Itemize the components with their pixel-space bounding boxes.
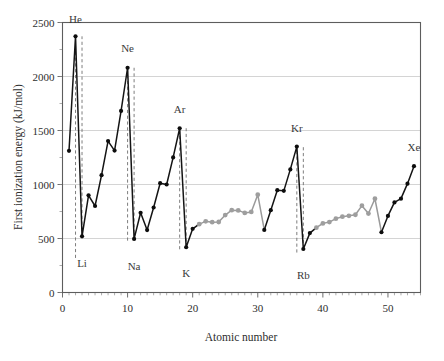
data-point-He — [73, 34, 77, 38]
x-tick-label: 50 — [382, 302, 394, 314]
axis-ticks — [58, 23, 421, 298]
data-point-Ni — [242, 211, 247, 216]
point-label-Xe: Xe — [408, 141, 421, 153]
data-point-Zn — [255, 192, 260, 197]
data-point-Ne — [125, 66, 129, 70]
data-point-S — [165, 182, 169, 186]
y-tick-label: 2000 — [33, 71, 56, 83]
data-point-Na — [132, 237, 136, 241]
x-tick-labels: 01020304050 — [60, 302, 394, 314]
data-point-Cr — [216, 220, 221, 225]
data-point-Li — [80, 234, 84, 238]
data-point-Cu — [249, 210, 254, 215]
plot-frame — [63, 23, 421, 293]
data-point-Fe — [229, 208, 234, 213]
y-tick-label: 500 — [38, 233, 55, 245]
data-point-Pd — [360, 203, 365, 208]
data-point-Mg — [139, 211, 143, 215]
x-tick-label: 0 — [60, 302, 66, 314]
data-point-N — [106, 139, 110, 143]
data-point-Be — [86, 193, 90, 197]
chart-canvas: 05001000150020002500 01020304050 HeNeArK… — [0, 0, 444, 361]
data-point-B — [93, 204, 97, 208]
y-tick-label: 0 — [49, 287, 55, 299]
data-point-Nb — [327, 220, 332, 225]
data-point-Si — [152, 205, 156, 209]
data-point-Rb — [301, 247, 305, 251]
point-label-K: K — [182, 267, 190, 279]
x-tick-label: 40 — [317, 302, 329, 314]
data-point-O — [112, 148, 116, 152]
data-point-Al — [145, 228, 149, 232]
data-point-Co — [236, 208, 241, 213]
data-series — [69, 36, 414, 249]
data-point-Cd — [373, 196, 378, 201]
data-point-Br — [288, 167, 292, 171]
y-tick-label: 2500 — [33, 17, 56, 29]
data-point-Sb — [392, 200, 396, 204]
data-point-Mo — [333, 216, 338, 221]
y-tick-label: 1000 — [33, 179, 56, 191]
series-segment-main-group — [381, 166, 414, 232]
point-label-Ne: Ne — [121, 42, 134, 54]
data-point-V — [210, 220, 215, 225]
data-point-Ge — [269, 208, 273, 212]
data-point-Ag — [366, 211, 371, 216]
data-point-K — [184, 245, 188, 249]
data-point-Te — [399, 197, 403, 201]
data-point-Sc — [197, 222, 202, 227]
data-point-Y — [314, 225, 319, 230]
data-point-Tc — [340, 214, 345, 219]
data-point-Ti — [203, 219, 208, 224]
y-axis-title: First ionization energy (kJ/mol) — [12, 84, 25, 230]
y-tick-labels: 05001000150020002500 — [33, 17, 56, 299]
data-point-F — [119, 109, 123, 113]
data-point-Ar — [178, 126, 182, 130]
data-point-Sr — [308, 231, 312, 235]
data-points — [67, 34, 416, 251]
data-point-Cl — [171, 155, 175, 159]
x-tick-label: 20 — [187, 302, 199, 314]
data-point-Ca — [191, 227, 195, 231]
point-label-Rb: Rb — [297, 269, 310, 281]
annotation-leader-lines — [76, 36, 414, 258]
point-label-Li: Li — [77, 257, 87, 269]
x-axis-title: Atomic number — [205, 331, 278, 343]
data-point-C — [99, 173, 103, 177]
data-point-Se — [282, 189, 286, 193]
data-point-Ru — [347, 213, 352, 218]
y-tick-label: 1500 — [33, 125, 56, 137]
data-point-P — [158, 181, 162, 185]
point-label-Kr: Kr — [291, 122, 303, 134]
ionization-energy-chart: 05001000150020002500 01020304050 HeNeArK… — [0, 0, 444, 361]
data-point-Sn — [386, 214, 390, 218]
data-point-I — [405, 182, 409, 186]
data-point-Mn — [223, 213, 228, 218]
data-point-Rh — [353, 212, 358, 217]
x-tick-label: 10 — [122, 302, 134, 314]
data-point-In — [379, 230, 383, 234]
x-tick-label: 30 — [252, 302, 264, 314]
data-point-Kr — [295, 144, 299, 148]
data-point-Xe — [412, 164, 416, 168]
data-point-H — [67, 149, 71, 153]
data-point-Ga — [262, 228, 266, 232]
point-labels: HeNeArKrXeLiNaKRb — [69, 13, 420, 282]
data-point-Zr — [320, 221, 325, 226]
data-point-As — [275, 188, 279, 192]
point-label-Ar: Ar — [174, 103, 186, 115]
point-label-He: He — [69, 13, 82, 25]
point-label-Na: Na — [128, 260, 141, 272]
